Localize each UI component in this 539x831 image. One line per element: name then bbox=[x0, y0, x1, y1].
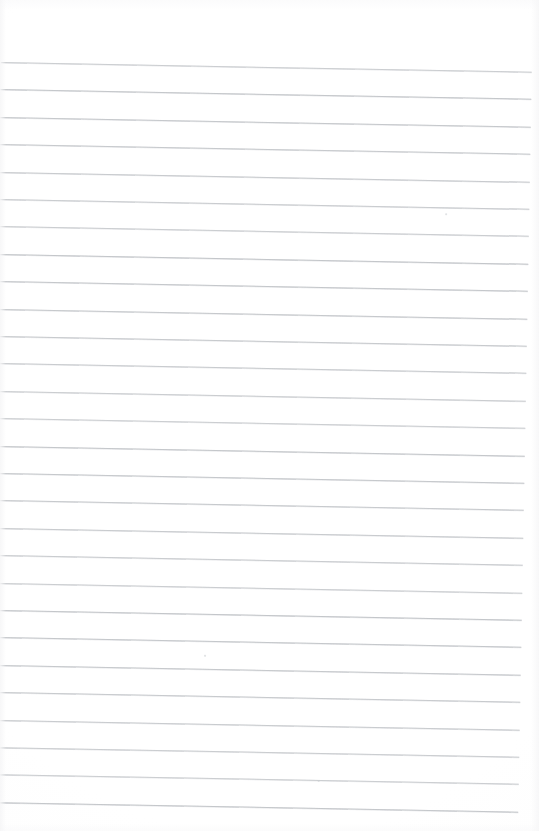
scanned-page bbox=[0, 0, 539, 831]
writing-area[interactable] bbox=[0, 0, 539, 831]
